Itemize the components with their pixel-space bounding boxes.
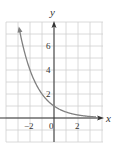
- exponential-decay-chart: −202246 x y: [0, 0, 115, 150]
- y-tick-label: 6: [46, 41, 51, 51]
- curve-series: [19, 28, 96, 117]
- y-axis-label: y: [49, 6, 55, 18]
- y-tick-label: 4: [46, 65, 51, 75]
- y-tick-label: 2: [46, 89, 51, 99]
- x-axis-label: x: [105, 112, 111, 124]
- x-tick-label: −2: [24, 121, 34, 131]
- x-tick-label: 2: [75, 121, 80, 131]
- x-tick-label: 0: [49, 121, 54, 131]
